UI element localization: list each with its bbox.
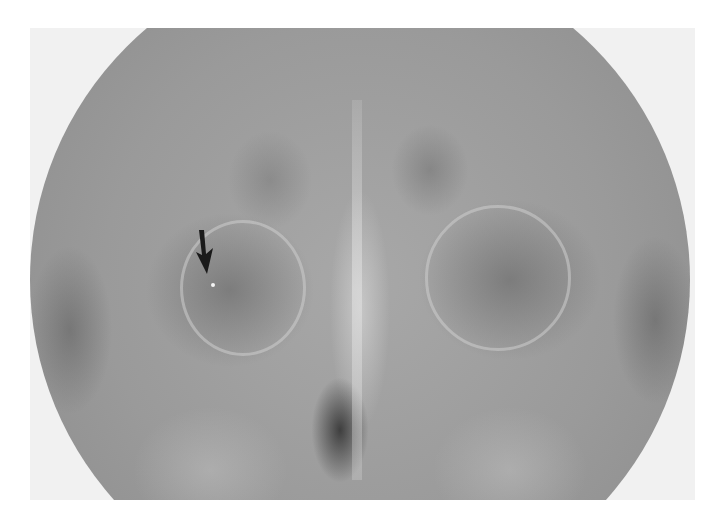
right-orbit-rim [425, 205, 571, 351]
foreign-body-marker [211, 283, 215, 287]
nasal-septum [352, 100, 362, 480]
radiograph-film [30, 28, 695, 500]
collimation-field [30, 28, 690, 500]
arrow-icon [193, 228, 217, 276]
